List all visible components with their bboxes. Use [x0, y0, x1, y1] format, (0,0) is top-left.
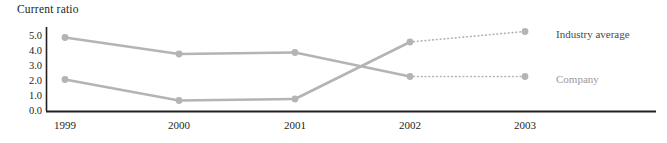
data-point-marker [176, 97, 183, 104]
data-point-marker [522, 73, 529, 80]
x-tick-label-2000: 2000 [168, 119, 190, 131]
chart-plot-area [0, 0, 667, 143]
series-segment [179, 53, 295, 55]
data-point-marker [292, 49, 299, 56]
data-point-marker [407, 73, 414, 80]
x-tick-label-2002: 2002 [399, 119, 421, 131]
series-segment [295, 42, 410, 99]
series-label-industry-average: Industry average [556, 28, 630, 40]
x-tick-label-2003: 2003 [514, 119, 536, 131]
x-tick-label-2001: 2001 [284, 119, 306, 131]
data-point-marker [62, 34, 69, 41]
series-segment-projected [410, 32, 525, 43]
data-point-marker [292, 96, 299, 103]
data-point-marker [62, 76, 69, 83]
series-company [62, 34, 529, 80]
data-point-marker [407, 39, 414, 46]
series-segment [179, 99, 295, 101]
series-segment [65, 80, 179, 101]
x-tick-label-1999: 1999 [54, 119, 76, 131]
series-industry-average [62, 28, 529, 104]
series-segment [65, 38, 179, 55]
data-point-marker [522, 28, 529, 35]
data-point-marker [176, 51, 183, 58]
series-label-company: Company [556, 73, 599, 85]
chart-container: Current ratio 5.0 4.0 3.0 2.0 1.0 0.0 19… [0, 0, 667, 143]
series-segment [295, 53, 410, 77]
